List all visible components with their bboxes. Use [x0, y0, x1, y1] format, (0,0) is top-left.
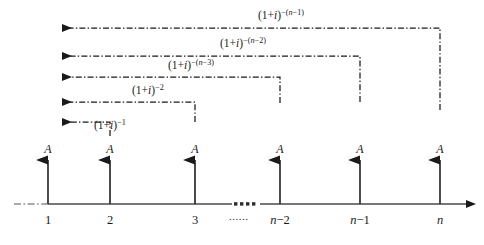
period-label-3: 3	[192, 214, 198, 227]
discount-path-n-3	[62, 77, 280, 103]
amount-label-2: A	[106, 143, 113, 155]
factor-exponent: −2	[155, 83, 164, 92]
discount-factor-label-n-2: (1+i)−(n−2)	[220, 36, 266, 49]
factor-base: (1+i)	[258, 9, 281, 21]
amount-label-n-1: A	[356, 143, 363, 155]
discount-factor-label-n-1: (1+i)−(n−1)	[258, 8, 304, 21]
cash-flow-arrows	[48, 160, 440, 204]
amount-label-n: A	[436, 143, 443, 155]
factor-exponent: −1	[117, 118, 126, 127]
discount-factor-label-n-3: (1+i)−(n−3)	[168, 58, 214, 71]
amount-label-1: A	[44, 143, 51, 155]
period-label-2: 2	[107, 214, 113, 227]
factor-base: (1+i)	[168, 59, 191, 71]
factor-exponent: −(n−1)	[281, 8, 304, 17]
period-label-1: 1	[45, 214, 51, 227]
amount-label-3: A	[191, 143, 198, 155]
period-label-n-2: n−2	[270, 214, 290, 227]
discount-path-2	[62, 102, 195, 122]
period-label-n: n	[437, 214, 443, 227]
factor-exponent: −(n−3)	[191, 58, 214, 67]
factor-base: (1+i)	[94, 119, 117, 131]
cash-flow-diagram: (1+i)−(n−1) (1+i)−(n−2) (1+i)−(n−3) (1+i…	[0, 0, 484, 245]
discount-factor-label-2: (1+i)−2	[132, 83, 164, 96]
amount-label-n-2: A	[276, 143, 283, 155]
factor-base: (1+i)	[132, 84, 155, 96]
axis-ellipsis-dots	[234, 202, 255, 205]
discount-factor-label-1: (1+i)−1	[94, 118, 126, 131]
factor-exponent: −(n−2)	[243, 36, 266, 45]
factor-base: (1+i)	[220, 37, 243, 49]
period-label-n-1: n−1	[350, 214, 370, 227]
axis-ellipsis-label: ......	[229, 211, 249, 222]
